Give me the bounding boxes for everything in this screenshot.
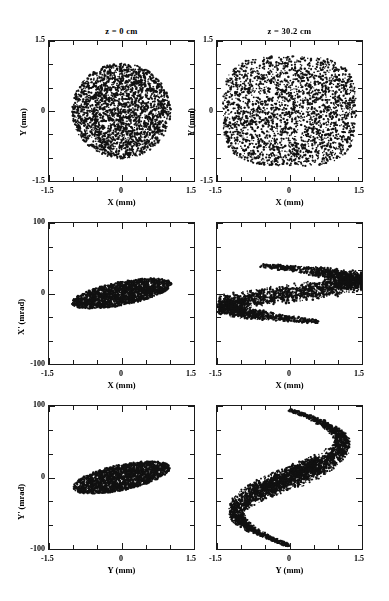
y-tick-label: 100 xyxy=(24,400,45,409)
axis-tick xyxy=(265,406,266,410)
axis-tick xyxy=(290,175,291,181)
axis-tick xyxy=(265,223,266,227)
axis-tick xyxy=(217,88,221,89)
x-tick-label: 1.5 xyxy=(186,554,196,563)
axis-tick xyxy=(265,41,266,45)
plot-frame xyxy=(48,222,195,365)
y-axis-label: X' (mrad) xyxy=(16,299,26,335)
axis-tick xyxy=(314,406,315,410)
panel-xxp-z0: X' (mrad) X (mm) -1.5 0 1.5 100 0 -100 xyxy=(48,222,195,365)
axis-tick xyxy=(146,41,147,45)
phase-space-figure: z = 0 cm Y (mm) X (mm) -1.5 0 1.5 1.5 0 … xyxy=(0,0,389,601)
x-tick-label: -1.5 xyxy=(41,554,54,563)
x-tick-label: 0 xyxy=(119,186,123,195)
axis-tick xyxy=(358,501,362,502)
y-tick-label: 1.5 xyxy=(26,35,45,44)
axis-tick xyxy=(217,134,221,135)
x-tick-label: -1.5 xyxy=(41,186,54,195)
axis-tick xyxy=(170,41,171,45)
axis-tick xyxy=(356,41,362,42)
axis-tick xyxy=(290,406,291,412)
axis-tick xyxy=(362,223,363,229)
axis-tick xyxy=(217,270,221,271)
axis-tick xyxy=(358,270,362,271)
axis-tick xyxy=(265,177,266,181)
scatter-canvas xyxy=(49,406,194,549)
axis-tick xyxy=(194,406,195,412)
plot-frame xyxy=(48,405,195,550)
axis-tick xyxy=(265,360,266,364)
axis-tick xyxy=(358,525,362,526)
y-tick-label: -1.5 xyxy=(26,176,45,185)
axis-tick xyxy=(362,41,363,47)
axis-tick xyxy=(49,270,53,271)
axis-tick xyxy=(194,358,195,364)
axis-tick xyxy=(73,223,74,227)
axis-tick xyxy=(217,406,223,407)
x-tick-label: 0 xyxy=(287,186,291,195)
axis-tick xyxy=(290,223,291,229)
axis-tick xyxy=(122,175,123,181)
axis-tick xyxy=(190,64,194,65)
axis-tick xyxy=(217,454,221,455)
axis-tick xyxy=(338,223,339,227)
axis-tick xyxy=(356,111,362,112)
axis-tick xyxy=(217,364,223,365)
axis-tick xyxy=(241,177,242,181)
axis-tick xyxy=(194,543,195,549)
axis-tick xyxy=(188,364,194,365)
axis-tick xyxy=(358,64,362,65)
axis-tick xyxy=(358,88,362,89)
axis-tick xyxy=(314,223,315,227)
y-axis-label: Y' (mrad) xyxy=(16,484,26,520)
axis-tick xyxy=(49,88,53,89)
axis-tick xyxy=(190,270,194,271)
axis-tick xyxy=(217,64,221,65)
axis-tick xyxy=(97,177,98,181)
axis-tick xyxy=(356,549,362,550)
x-tick-label: 0 xyxy=(287,369,291,378)
axis-tick xyxy=(362,543,363,549)
y-tick-label: -100 xyxy=(24,359,45,368)
axis-tick xyxy=(97,406,98,410)
axis-tick xyxy=(358,430,362,431)
axis-tick xyxy=(217,158,221,159)
axis-tick xyxy=(146,223,147,227)
x-axis-label: X (mm) xyxy=(48,380,195,390)
axis-tick xyxy=(49,41,55,42)
panel-xxp-z302: X' (mrad) X (mm) -1.5 0 1.5 xyxy=(216,222,363,365)
axis-tick xyxy=(338,406,339,410)
y-tick-label: 0 xyxy=(24,288,45,297)
axis-tick xyxy=(97,545,98,549)
axis-tick xyxy=(122,543,123,549)
axis-tick xyxy=(170,545,171,549)
y-tick-label: 1.5 xyxy=(194,35,213,44)
axis-tick xyxy=(362,406,363,412)
axis-tick xyxy=(170,177,171,181)
axis-tick xyxy=(217,478,223,479)
x-tick-label: 0 xyxy=(287,554,291,563)
panel-yyp-z0: Y' (mrad) Y (mm) -1.5 0 1.5 100 0 -100 xyxy=(48,405,195,550)
axis-tick xyxy=(190,158,194,159)
x-axis-label: X (mm) xyxy=(48,197,195,207)
axis-tick xyxy=(290,543,291,549)
x-tick-label: 1.5 xyxy=(354,554,364,563)
y-tick-label: 0 xyxy=(26,106,45,115)
axis-tick xyxy=(73,41,74,45)
axis-tick xyxy=(49,454,53,455)
axis-tick xyxy=(49,364,55,365)
axis-tick xyxy=(241,360,242,364)
axis-tick xyxy=(194,223,195,229)
axis-tick xyxy=(188,294,194,295)
axis-tick xyxy=(356,223,362,224)
axis-tick xyxy=(338,360,339,364)
axis-tick xyxy=(73,177,74,181)
scatter-canvas xyxy=(217,41,362,181)
axis-tick xyxy=(49,525,53,526)
axis-tick xyxy=(49,223,55,224)
x-tick-label: -1.5 xyxy=(209,186,222,195)
axis-tick xyxy=(97,41,98,45)
axis-tick xyxy=(290,41,291,47)
axis-tick xyxy=(146,360,147,364)
axis-tick xyxy=(188,406,194,407)
